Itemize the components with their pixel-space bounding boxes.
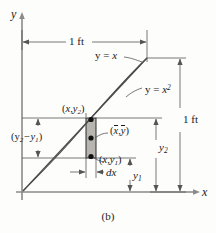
curve-label-line-text: y = [95, 49, 112, 61]
curve-label-line: y = x [95, 50, 117, 61]
curve-label-parabola-text: y = [145, 83, 162, 95]
y1-subscript: 1 [138, 174, 142, 183]
point-label-centroid: (x,y) [110, 126, 129, 137]
strip-height-close: ) [39, 131, 43, 142]
curve-label-parabola-exponent: 2 [167, 83, 171, 92]
axis-y-label: y [11, 8, 16, 20]
centroid-y-bar: y [121, 126, 126, 137]
strip-height-minus-y: −y [23, 131, 35, 142]
dimension-right-height [147, 58, 186, 192]
point-label-upper: (x,y2) [62, 104, 85, 116]
paren-close: ) [125, 125, 129, 136]
figure-container: y x 1 ft 1 ft y = x y = x2 (x,y2) (x,y1)… [0, 0, 216, 233]
centroid-x-bar: x [114, 126, 119, 137]
dimension-y1-label: y1 [133, 170, 142, 182]
paren-close: ) [81, 103, 85, 114]
point-upper-coords: x,y [66, 103, 78, 114]
point-lower-dot [88, 154, 93, 159]
curve-label-line-var: x [112, 49, 117, 61]
strip-height-open: (y [11, 131, 20, 142]
point-centroid-dot [88, 135, 93, 140]
point-upper-dot [88, 117, 93, 122]
curve-label-parabola: y = x2 [145, 84, 171, 95]
dimension-right-height-label: 1 ft [183, 114, 198, 125]
paren-close: ) [118, 154, 122, 165]
point-lower-coords: x,y [103, 154, 115, 165]
dimension-y2-label: y2 [159, 142, 168, 154]
point-label-lower: (x,y1) [99, 155, 122, 167]
dimension-top-width-label: 1 ft [69, 36, 84, 47]
axis-x-label: x [202, 186, 207, 198]
dimension-top-width [22, 30, 147, 62]
dimension-strip-height-label: (y2−y1) [11, 132, 42, 144]
dimension-dx-label: dx [106, 167, 116, 178]
figure-caption: (b) [0, 210, 216, 222]
y2-subscript: 2 [164, 146, 168, 155]
